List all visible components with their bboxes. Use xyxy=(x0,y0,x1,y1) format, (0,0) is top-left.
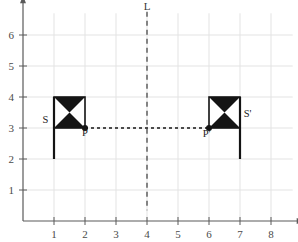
mirror-line-label: L xyxy=(144,0,151,12)
x-tick-label: 5 xyxy=(175,228,181,240)
y-tick-label: 1 xyxy=(9,184,15,196)
y-tick-label: 5 xyxy=(9,60,15,72)
y-tick-label: 4 xyxy=(9,91,15,103)
y-tick-label: 2 xyxy=(9,153,15,165)
x-tick-label: 4 xyxy=(144,228,150,240)
x-tick-label: 7 xyxy=(237,228,243,240)
reflection-figure: 12345678123456 LSS'PP' xyxy=(0,0,298,242)
point-label: P xyxy=(82,127,88,138)
x-tick-label: 3 xyxy=(113,228,119,240)
y-tick-label: 6 xyxy=(9,29,15,41)
x-tick-label: 8 xyxy=(268,228,274,240)
coordinate-plane: 12345678123456 LSS'PP' xyxy=(0,0,298,242)
shape-label: S xyxy=(43,114,49,125)
y-tick-label: 3 xyxy=(9,122,15,134)
x-tick-label: 6 xyxy=(206,228,212,240)
x-tick-label: 1 xyxy=(51,228,57,240)
shape-label: S' xyxy=(244,108,252,119)
x-tick-label: 2 xyxy=(82,228,88,240)
x-axis-arrowhead xyxy=(297,218,298,224)
point-label: P' xyxy=(203,128,211,139)
